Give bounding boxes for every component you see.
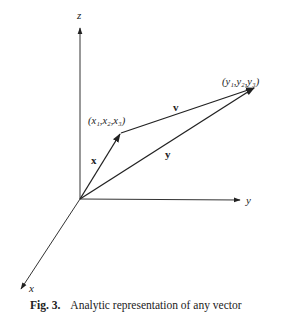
y-axis-label: y — [245, 194, 251, 206]
figure-caption-text: Analytic representation of any vector — [70, 299, 241, 311]
figure-number: Fig. 3. — [30, 299, 60, 311]
z-axis-label: z — [76, 9, 82, 21]
vector-y — [80, 88, 254, 199]
y-point-label: (y₁,y₂,y₃) — [222, 76, 260, 88]
vector-diagram: z y x x y v (x₁,x₂,x₃) (y₁,y₂,y₃) — [0, 0, 286, 324]
vector-v-label: v — [173, 101, 179, 113]
figure-caption: Fig. 3.Analytic representation of any ve… — [30, 299, 242, 311]
vector-x — [80, 134, 120, 199]
vector-x-label: x — [91, 154, 97, 166]
x-axis-label: x — [28, 282, 34, 294]
vector-v — [121, 88, 254, 133]
vector-y-label: y — [165, 148, 171, 160]
y-axis — [80, 199, 240, 200]
x-axis — [21, 199, 80, 289]
x-point-label: (x₁,x₂,x₃) — [88, 115, 126, 127]
